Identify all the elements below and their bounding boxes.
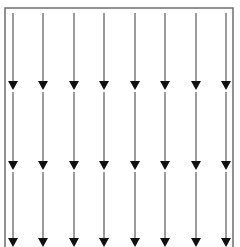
down-arrow-icon	[38, 13, 48, 90]
down-arrow-icon	[221, 172, 231, 247]
arrowhead	[221, 81, 231, 90]
arrow-column	[160, 13, 170, 247]
down-arrow-icon	[130, 13, 140, 90]
down-arrow-icon	[8, 172, 18, 247]
down-arrow-icon	[8, 13, 18, 90]
arrowhead	[191, 81, 201, 90]
arrowhead	[191, 238, 201, 247]
down-arrow-icon	[191, 172, 201, 247]
flow-diagram	[0, 0, 240, 247]
arrowhead	[160, 161, 170, 170]
arrowhead	[99, 161, 109, 170]
arrow-column	[130, 13, 140, 247]
arrowhead	[160, 81, 170, 90]
arrowhead	[221, 238, 231, 247]
down-arrow-icon	[191, 13, 201, 90]
arrow-column	[221, 13, 231, 247]
arrowhead	[38, 238, 48, 247]
arrowhead	[8, 81, 18, 90]
down-arrow-icon	[8, 92, 18, 170]
arrow-column	[191, 13, 201, 247]
down-arrow-icon	[130, 172, 140, 247]
arrowhead	[130, 81, 140, 90]
arrowhead	[130, 161, 140, 170]
vector-field-canvas	[0, 0, 240, 247]
arrowhead	[69, 238, 79, 247]
down-arrow-icon	[69, 13, 79, 90]
arrowhead	[99, 81, 109, 90]
arrowhead	[8, 161, 18, 170]
down-arrow-icon	[69, 172, 79, 247]
arrowhead	[130, 238, 140, 247]
arrow-column	[8, 13, 18, 247]
arrowhead	[8, 238, 18, 247]
down-arrow-icon	[160, 13, 170, 90]
arrow-column	[69, 13, 79, 247]
arrowhead	[191, 161, 201, 170]
down-arrow-icon	[99, 13, 109, 90]
down-arrow-icon	[160, 172, 170, 247]
down-arrow-icon	[69, 92, 79, 170]
arrowhead	[69, 161, 79, 170]
frame-border	[5, 8, 233, 247]
arrowhead	[69, 81, 79, 90]
arrowhead	[38, 81, 48, 90]
down-arrow-icon	[130, 92, 140, 170]
arrowhead	[160, 238, 170, 247]
down-arrow-icon	[221, 13, 231, 90]
down-arrow-icon	[99, 92, 109, 170]
arrow-columns	[8, 13, 231, 247]
arrowhead	[99, 238, 109, 247]
arrowhead	[38, 161, 48, 170]
down-arrow-icon	[221, 92, 231, 170]
down-arrow-icon	[38, 172, 48, 247]
arrow-column	[38, 13, 48, 247]
arrowhead	[221, 161, 231, 170]
down-arrow-icon	[160, 92, 170, 170]
down-arrow-icon	[191, 92, 201, 170]
down-arrow-icon	[38, 92, 48, 170]
down-arrow-icon	[99, 172, 109, 247]
diagram-frame	[5, 8, 233, 247]
arrow-column	[99, 13, 109, 247]
